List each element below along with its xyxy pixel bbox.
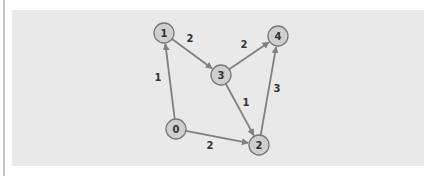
edge-weight-1-3: 2 — [187, 33, 194, 44]
graph-node-2: 2 — [249, 135, 269, 155]
edge-0-to-1 — [165, 44, 174, 119]
edge-weight-0-1: 1 — [155, 72, 162, 83]
node-label: 2 — [256, 140, 263, 151]
edge-3-to-4 — [229, 42, 269, 69]
edge-0-to-2 — [186, 131, 248, 143]
graph-node-4: 4 — [268, 26, 288, 46]
node-label: 0 — [173, 124, 180, 135]
edge-weight-2-4: 3 — [274, 83, 281, 94]
node-label: 4 — [275, 31, 282, 42]
edge-weight-0-2: 2 — [207, 140, 214, 151]
graph-node-1: 1 — [154, 23, 174, 43]
edge-weight-3-2: 1 — [243, 97, 250, 108]
node-label: 1 — [161, 28, 168, 39]
node-label: 3 — [218, 70, 225, 81]
graph-node-0: 0 — [166, 119, 186, 139]
edge-weight-3-4: 2 — [241, 39, 248, 50]
graph-canvas: 122213 01234 — [0, 0, 436, 176]
edge-3-to-2 — [226, 84, 254, 136]
graph-node-3: 3 — [211, 65, 231, 85]
